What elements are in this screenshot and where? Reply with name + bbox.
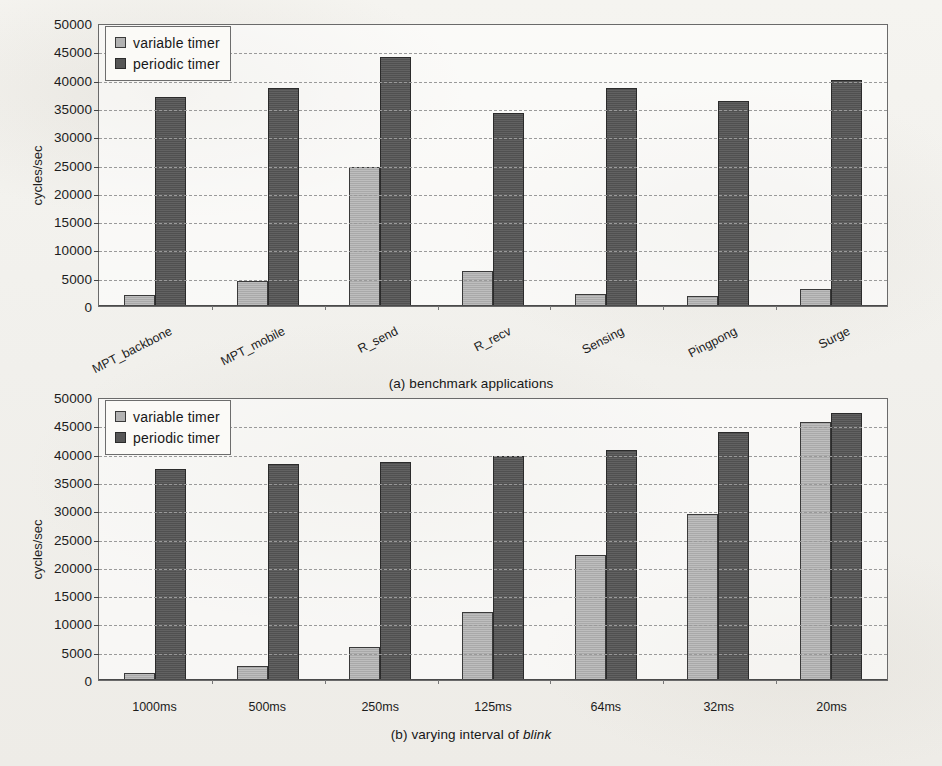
y-tick-mark — [94, 223, 99, 224]
bar-group — [774, 399, 887, 680]
gridline — [99, 251, 887, 252]
legend-label: variable timer — [133, 35, 220, 51]
gridline — [99, 597, 887, 598]
x-axis-category-label: 32ms — [703, 700, 734, 714]
bar-group — [774, 25, 887, 306]
y-tick-mark — [94, 456, 99, 457]
y-tick-label: 30000 — [54, 504, 92, 519]
gridline — [99, 195, 887, 196]
y-tick-mark — [94, 427, 99, 428]
legend-swatch-variable — [115, 411, 126, 422]
x-axis-category-label: 250ms — [361, 700, 399, 714]
bar-variable-timer — [800, 289, 831, 306]
y-tick-mark — [94, 138, 99, 139]
y-axis-tick-labels-a: 5000045000400003500030000250002000015000… — [16, 18, 92, 318]
bar-periodic-timer — [718, 101, 749, 306]
legend-label: periodic timer — [133, 56, 220, 72]
x-axis-line-b — [99, 679, 887, 680]
y-tick-mark — [94, 167, 99, 168]
bar-periodic-timer — [268, 88, 299, 306]
x-axis-category-label: R_recv — [472, 324, 514, 354]
x-tick-mark — [212, 680, 213, 684]
bar-periodic-timer — [380, 462, 411, 680]
y-tick-label: 0 — [84, 300, 92, 315]
y-tick-label: 25000 — [54, 158, 92, 173]
chart-legend: variable timerperiodic timer — [105, 26, 231, 81]
y-tick-label: 45000 — [54, 419, 92, 434]
x-tick-mark — [776, 306, 777, 310]
x-axis-category-label: Surge — [816, 324, 852, 352]
bar-group — [662, 399, 775, 680]
x-axis-category-label: 1000ms — [132, 700, 176, 714]
gridline — [99, 456, 887, 457]
y-tick-label: 20000 — [54, 560, 92, 575]
y-tick-label: 40000 — [54, 447, 92, 462]
y-tick-label: 45000 — [54, 45, 92, 60]
bar-variable-timer — [462, 612, 493, 680]
gridline — [99, 138, 887, 139]
bar-group — [549, 399, 662, 680]
legend-swatch-variable — [115, 37, 126, 48]
x-tick-mark — [325, 306, 326, 310]
bar-periodic-timer — [493, 113, 524, 306]
bar-periodic-timer — [831, 413, 862, 680]
bar-periodic-timer — [268, 464, 299, 680]
gridline — [99, 82, 887, 83]
bar-group — [324, 399, 437, 680]
y-tick-mark — [94, 484, 99, 485]
caption-b: (b) varying interval of blink — [0, 727, 942, 742]
x-tick-mark — [212, 306, 213, 310]
x-tick-mark — [325, 680, 326, 684]
gridline — [99, 541, 887, 542]
gridline — [99, 654, 887, 655]
x-axis-line-a — [99, 305, 887, 306]
caption-b-italic-term: blink — [523, 727, 551, 742]
y-tick-label: 10000 — [54, 617, 92, 632]
y-tick-label: 30000 — [54, 130, 92, 145]
legend-label: periodic timer — [133, 430, 220, 446]
y-tick-label: 35000 — [54, 475, 92, 490]
y-tick-mark — [94, 82, 99, 83]
y-tick-mark — [94, 625, 99, 626]
x-tick-mark — [438, 306, 439, 310]
legend-item-variable-timer: variable timer — [115, 406, 220, 427]
y-tick-label: 0 — [84, 674, 92, 689]
legend-swatch-periodic — [115, 58, 126, 69]
x-axis-category-label: MPT_backbone — [90, 324, 174, 376]
legend-item-periodic-timer: periodic timer — [115, 53, 220, 74]
y-tick-label: 15000 — [54, 589, 92, 604]
y-tick-mark — [94, 569, 99, 570]
y-tick-mark — [94, 110, 99, 111]
y-tick-mark — [94, 597, 99, 598]
bar-periodic-timer — [718, 432, 749, 680]
bar-periodic-timer — [155, 469, 186, 680]
legend-item-variable-timer: variable timer — [115, 32, 220, 53]
bar-variable-timer — [800, 422, 831, 680]
x-tick-mark — [438, 680, 439, 684]
bar-group — [662, 25, 775, 306]
bar-variable-timer — [237, 281, 268, 306]
x-axis-category-label: MPT_mobile — [219, 324, 288, 368]
y-tick-mark — [94, 280, 99, 281]
y-tick-mark — [94, 654, 99, 655]
x-axis-category-label: Sensing — [580, 324, 627, 357]
bar-variable-timer — [349, 647, 380, 680]
y-tick-mark — [94, 53, 99, 54]
y-tick-mark — [94, 541, 99, 542]
chart-panel-a: cycles/sec 50000450004000035000300002500… — [0, 18, 942, 398]
y-tick-mark — [94, 251, 99, 252]
bar-group — [549, 25, 662, 306]
gridline — [99, 110, 887, 111]
gridline — [99, 280, 887, 281]
y-tick-label: 10000 — [54, 243, 92, 258]
gridline — [99, 223, 887, 224]
chart-panel-b: cycles/sec 50000450004000035000300002500… — [0, 392, 942, 762]
bar-variable-timer — [349, 167, 380, 306]
y-tick-label: 15000 — [54, 215, 92, 230]
x-tick-mark — [550, 680, 551, 684]
x-axis-labels-b: 1000ms500ms250ms125ms64ms32ms20ms — [0, 690, 942, 730]
legend-swatch-periodic — [115, 432, 126, 443]
y-tick-mark — [94, 195, 99, 196]
gridline — [99, 569, 887, 570]
caption-a: (a) benchmark applications — [0, 376, 942, 391]
